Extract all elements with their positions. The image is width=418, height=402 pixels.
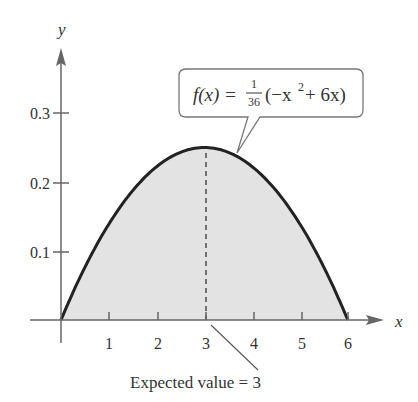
function-callout-bubble [179,69,363,153]
svg-text:0.1: 0.1 [30,244,50,261]
x-axis-label: x [394,312,403,331]
svg-text:36: 36 [248,95,260,109]
svg-text:6: 6 [344,335,352,352]
svg-text:+ 6x): + 6x) [305,84,346,106]
svg-text:2: 2 [298,80,304,94]
svg-text:2: 2 [154,335,162,352]
svg-text:0.2: 0.2 [30,175,50,192]
svg-text:1: 1 [105,335,113,352]
svg-text:(−x: (−x [265,84,292,106]
svg-text:3: 3 [202,335,210,352]
svg-text:f(x) =: f(x) = [193,84,237,106]
svg-text:1: 1 [251,77,257,91]
svg-text:0.3: 0.3 [30,105,50,122]
svg-text:5: 5 [298,335,306,352]
chart: y x 1 2 3 4 5 6 0.1 0.2 0.3 f(x) = 1 36 … [0,0,418,402]
y-axis-label: y [56,20,66,39]
expected-value-label: Expected value = 3 [130,373,261,392]
svg-text:4: 4 [250,335,258,352]
x-tick-labels: 1 2 3 4 5 6 [105,335,352,352]
y-tick-labels: 0.1 0.2 0.3 [30,105,50,261]
